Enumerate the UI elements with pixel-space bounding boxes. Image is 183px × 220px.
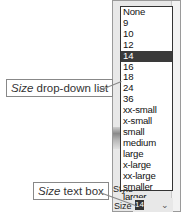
callout-size-textbox: Size text box [33, 182, 109, 200]
size-option[interactable]: 12 [121, 40, 172, 51]
size-text-box[interactable]: 14 ⌄ [133, 198, 173, 212]
size-value[interactable]: 14 [135, 200, 144, 210]
size-option[interactable]: None [121, 7, 172, 18]
size-option[interactable]: xx-large [121, 171, 172, 182]
callout-text: text box [60, 185, 103, 197]
callout-italic: Size [11, 82, 33, 94]
size-dropdown-list[interactable]: None 9 10 12 14 16 18 24 36 xx-small x-s… [120, 6, 173, 191]
callout-italic: Size [38, 185, 60, 197]
callout-size-dropdown: Size drop-down list [6, 79, 113, 97]
callout-text: drop-down list [33, 82, 108, 94]
size-option-selected[interactable]: 14 [121, 51, 172, 62]
size-option[interactable]: x-large [121, 160, 172, 171]
chevron-down-icon[interactable]: ⌄ [159, 199, 171, 211]
